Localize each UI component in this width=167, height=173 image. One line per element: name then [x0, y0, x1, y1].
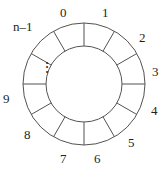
slot-6-label: 6: [94, 152, 101, 165]
sector-divider-7: [54, 117, 66, 137]
inner-circle: [46, 46, 122, 122]
slot-0-label: 0: [60, 6, 67, 19]
slot-7-label: 7: [60, 152, 67, 165]
vertical-ellipsis-icon: ⋮: [40, 62, 54, 74]
slot-1-label: 1: [102, 6, 109, 19]
slot-9-label: 9: [3, 92, 10, 105]
slot-5-label: 5: [128, 136, 135, 149]
circular-buffer-diagram: 0123456789n–1 ⋮: [0, 0, 167, 173]
slot-8-label: 8: [24, 128, 31, 141]
sector-divider-11: [54, 31, 66, 51]
slot-3-label: 3: [152, 65, 159, 78]
sector-divider-5: [103, 117, 115, 137]
slot-4-label: 4: [151, 104, 158, 117]
sector-divider-8: [31, 103, 51, 115]
sector-divider-4: [117, 103, 137, 115]
sector-divider-group: [23, 23, 145, 145]
sector-divider-2: [117, 54, 137, 66]
sector-divider-1: [103, 31, 115, 51]
slot-2-label: 2: [139, 31, 146, 44]
slot-n-1-label: n–1: [13, 20, 33, 33]
